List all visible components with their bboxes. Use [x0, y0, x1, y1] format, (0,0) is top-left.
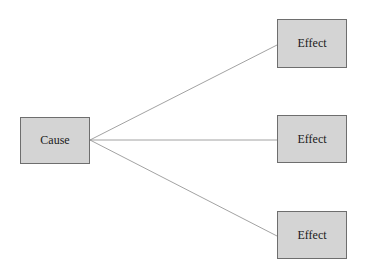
effect-box-1: Effect	[277, 19, 347, 68]
cause-label: Cause	[40, 133, 69, 148]
connector-to-effect-1	[90, 45, 277, 140]
cause-box: Cause	[20, 117, 90, 164]
effect-label: Effect	[297, 228, 326, 243]
effect-box-2: Effect	[277, 115, 347, 163]
connector-to-effect-3	[90, 140, 277, 236]
effect-label: Effect	[297, 132, 326, 147]
effect-label: Effect	[297, 36, 326, 51]
effect-box-3: Effect	[277, 211, 347, 259]
